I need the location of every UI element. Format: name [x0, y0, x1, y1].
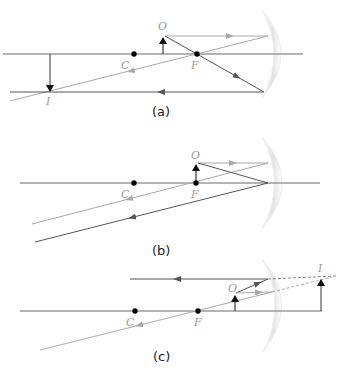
virtual-ray-lower-c [272, 277, 332, 292]
caption-c: (c) [153, 349, 170, 364]
center-point-c [132, 308, 137, 313]
mirror-c [263, 260, 282, 352]
concave-mirror-ray-diagrams: O C F I (a) O C F (b) [0, 0, 349, 377]
panel-a: O C F I (a) [3, 10, 303, 119]
focal-point-c [195, 308, 200, 313]
focal-point-a [194, 51, 199, 56]
center-label-c: C [126, 316, 135, 329]
panel-b: O C F (b) [20, 137, 320, 258]
ray-parallel-reflected-c [40, 292, 272, 350]
image-label-a: I [45, 95, 51, 108]
center-label-a: C [121, 59, 130, 72]
caption-b: (b) [152, 243, 170, 258]
ray-vertex-reflected-b [35, 183, 268, 242]
focus-label-b: F [190, 188, 199, 201]
center-point-a [131, 51, 136, 56]
center-label-b: C [121, 188, 130, 201]
image-label-c: I [317, 262, 323, 275]
caption-a: (a) [152, 104, 170, 119]
ray-parallel-reflected-a [10, 36, 268, 101]
focal-point-b [193, 180, 198, 185]
object-label-b: O [191, 149, 200, 162]
object-label-a: O [158, 20, 167, 33]
object-label-c: O [228, 282, 237, 295]
focus-label-c: F [193, 316, 202, 329]
panel-c: O C F I (c) [20, 260, 336, 364]
center-point-b [131, 180, 136, 185]
focus-label-a: F [190, 59, 199, 72]
ray-parallel-reflected-b [32, 163, 268, 224]
ray-focal-incident-a [165, 36, 264, 92]
